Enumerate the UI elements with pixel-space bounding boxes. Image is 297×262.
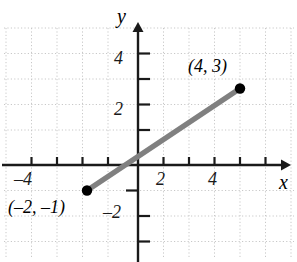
y-tick-label-neg2: –2 — [103, 203, 121, 221]
x-axis-label: x — [279, 172, 288, 192]
point-label-right: (4, 3) — [188, 57, 227, 75]
axes-group — [2, 22, 291, 262]
data-point-left — [82, 185, 92, 195]
x-tick-label-2: 2 — [156, 170, 165, 188]
x-axis-arrow-icon — [281, 160, 291, 171]
plot-canvas — [0, 0, 297, 262]
x-tick-label-4: 4 — [208, 170, 217, 188]
grid-lines — [4, 28, 294, 258]
y-tick-label-2: 2 — [114, 100, 123, 118]
coordinate-plane-figure: y x –4 2 4 4 2 –2 (–2, –1) (4, 3) — [0, 0, 297, 262]
x-tick-label-neg4: –4 — [14, 170, 32, 188]
y-tick-label-4: 4 — [114, 49, 123, 67]
y-axis-arrow-icon — [133, 22, 144, 32]
y-axis-label: y — [117, 6, 126, 26]
data-point-right — [235, 83, 245, 93]
point-label-left: (–2, –1) — [8, 198, 65, 216]
